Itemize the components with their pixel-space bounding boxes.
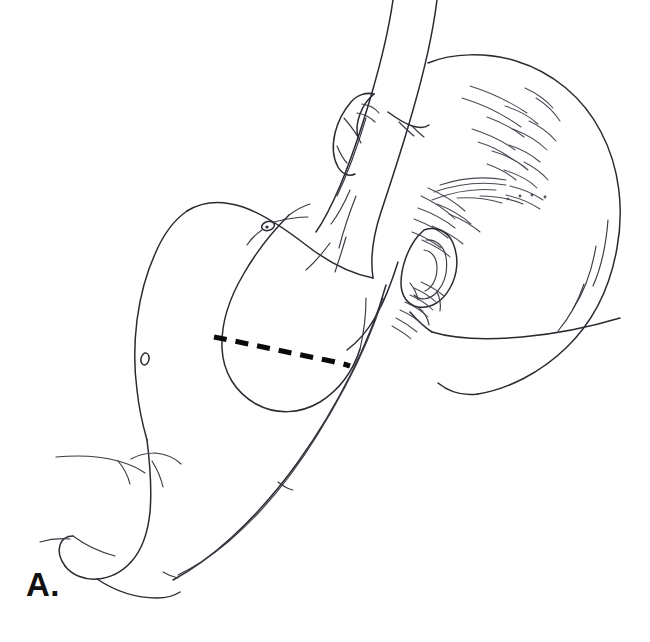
skull-shading-arc-3: [558, 284, 584, 331]
occiput-contour: [438, 383, 478, 395]
hairline-stroke: [506, 195, 540, 209]
nipple-group: [247, 217, 308, 245]
hair-stroke: [487, 164, 516, 180]
hair-stroke: [472, 129, 515, 150]
incision-group: [214, 337, 350, 366]
hair-stroke: [470, 86, 527, 113]
skull-shading-arc-2: [573, 246, 596, 309]
pectoral-upper-edge: [360, 298, 366, 349]
leg-crease-notch-2: [163, 572, 178, 578]
hair-stipple-dot: [519, 195, 521, 197]
areola-crease: [274, 217, 308, 222]
hair-stroke: [536, 98, 560, 121]
hair-group: [412, 86, 560, 257]
gluteal-fold: [65, 562, 131, 579]
hair-stroke: [462, 98, 521, 127]
breast-inferior-contour: [222, 215, 360, 412]
face-neck-group: [347, 262, 620, 350]
arm-posterior-edge: [372, 0, 437, 278]
neck-contour: [432, 318, 620, 339]
hair-stroke: [524, 162, 548, 180]
back-contour: [173, 285, 386, 580]
hair-stroke: [505, 106, 538, 124]
hand-edge-crease: [337, 146, 347, 163]
skin-mark-group: [140, 352, 150, 365]
neck-hatch-stroke: [392, 326, 411, 339]
flank-contour: [135, 211, 187, 440]
buttock-contour: [131, 440, 151, 562]
hair-stroke: [492, 151, 528, 170]
inguinal-crease: [56, 456, 118, 461]
groin-crease-group: [56, 453, 181, 487]
thigh-inner-line: [178, 298, 383, 575]
thigh-crease-2: [155, 453, 181, 464]
thigh-crease: [131, 453, 155, 459]
hair-stroke: [487, 117, 524, 137]
arm-anterior-edge: [316, 0, 393, 232]
thigh-crease-3: [152, 461, 163, 487]
hair-stroke: [525, 88, 553, 108]
temple-hair-stroke: [418, 208, 455, 228]
axilla-fold: [339, 196, 356, 248]
hair-stipple-dot: [531, 194, 533, 196]
gluteal-crease-line-2: [73, 536, 115, 556]
line-drawing-canvas: [0, 0, 650, 642]
temple-hair-stroke: [449, 214, 480, 232]
nipple-dot: [265, 225, 268, 228]
panel-label: A.: [26, 568, 60, 601]
breast-superior-contour: [289, 204, 310, 215]
areola-crease-2: [247, 230, 262, 245]
head-group: [428, 55, 620, 395]
lower-buttock-contour: [59, 536, 73, 566]
temple-hair-stroke: [437, 204, 471, 224]
incision-marking: [214, 337, 350, 366]
head-outline: [428, 55, 620, 394]
bottom-silhouette: [97, 579, 180, 598]
hair-stroke: [529, 121, 556, 141]
gluteal-crease-line: [40, 539, 70, 542]
figure-panel-a: A.: [0, 0, 650, 642]
umbilicus-mark: [140, 352, 150, 365]
hairline-stroke: [457, 198, 502, 203]
hair-stipple-dot: [544, 196, 546, 198]
finger-outline: [388, 112, 429, 127]
lower-body-group: [40, 285, 386, 598]
hair-stroke: [504, 170, 537, 188]
